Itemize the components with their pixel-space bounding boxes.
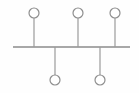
node-circle-bottom-1[interactable] (50, 75, 60, 85)
node-circle-bottom-2[interactable] (95, 75, 105, 85)
diagram-canvas (0, 0, 139, 93)
node-circle-top-3[interactable] (110, 8, 120, 18)
node-circle-top-2[interactable] (73, 8, 83, 18)
node-diagram (0, 0, 139, 93)
node-circle-top-1[interactable] (29, 8, 39, 18)
